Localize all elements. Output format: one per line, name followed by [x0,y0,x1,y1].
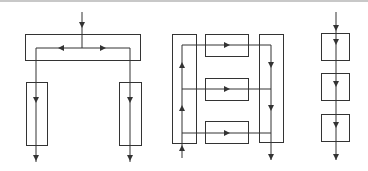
down-arrow-icon-1 [268,62,274,68]
left-down-arrow-icon [33,97,39,103]
series-output-arrow-icon [333,154,339,160]
right-down-arrow-icon [127,97,133,103]
left-output-arrow-icon [33,155,39,161]
row-arrow-icon-3 [224,130,230,136]
series-arrow-icon-3 [333,122,339,128]
input-arrow-icon [79,22,85,28]
right-output-arrow-icon [127,155,133,161]
down-arrow-icon-2 [268,105,274,111]
row-arrow-icon-2 [224,86,230,92]
series-topology [322,12,350,160]
flow-diagram [0,0,368,171]
serpentine-topology [173,35,284,161]
fork-topology [26,12,142,162]
series-arrow-icon-2 [333,81,339,87]
row-arrow-icon-1 [224,42,230,48]
left-branch-box [27,83,48,146]
right-arrow-icon [100,45,106,51]
series-arrow-icon-1 [333,39,339,45]
up-arrow-icon-2 [179,62,185,68]
series-input-arrow-icon [333,25,339,31]
left-arrow-icon [58,45,64,51]
up-arrow-icon-1 [179,105,185,111]
output-down-arrow-icon [268,154,274,160]
input-up-arrow-icon [179,145,185,151]
